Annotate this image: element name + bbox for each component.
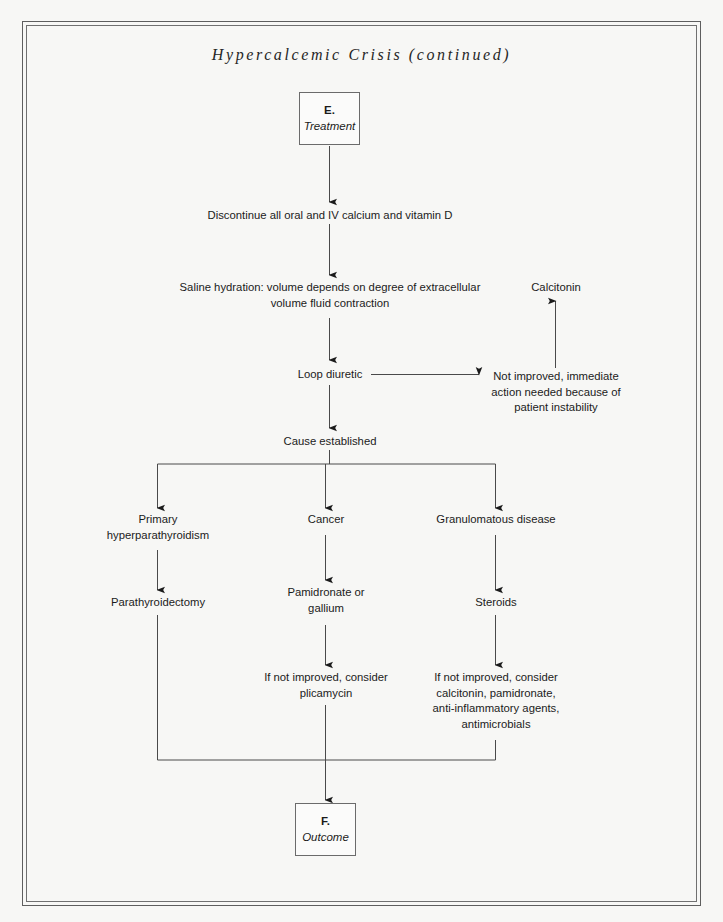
- flowchart-page: Hypercalcemic Crisis (continued): [0, 0, 723, 922]
- node-calcitonin: Calcitonin: [496, 280, 616, 296]
- node-saline-hydration: Saline hydration: volume depends on degr…: [160, 280, 500, 311]
- box-caption-outcome: Outcome: [302, 830, 349, 846]
- node-treatment-pamidronate-gallium: Pamidronate or gallium: [263, 585, 389, 616]
- node-box-outcome[interactable]: F. Outcome: [295, 803, 356, 856]
- node-loop-diuretic: Loop diuretic: [265, 367, 395, 383]
- node-followup-plicamycin: If not improved, consider plicamycin: [248, 670, 404, 701]
- page-border-inner: [26, 25, 697, 902]
- node-cause-granulomatous-disease: Granulomatous disease: [419, 512, 573, 528]
- node-treatment-parathyroidectomy: Parathyroidectomy: [92, 595, 224, 611]
- box-letter-e: E.: [324, 103, 335, 119]
- node-followup-granulomatous: If not improved, consider calcitonin, pa…: [415, 670, 577, 732]
- box-caption-treatment: Treatment: [304, 119, 356, 135]
- node-treatment-steroids: Steroids: [440, 595, 552, 611]
- node-box-treatment[interactable]: E. Treatment: [299, 92, 360, 145]
- box-letter-f: F.: [321, 814, 330, 830]
- node-cause-established: Cause established: [260, 434, 400, 450]
- node-cause-cancer: Cancer: [270, 512, 382, 528]
- page-title: Hypercalcemic Crisis (continued): [0, 46, 723, 64]
- node-cause-primary-hyperparathyroidism: Primary hyperparathyroidism: [87, 512, 229, 543]
- node-discontinue-calcium-vitamin-d: Discontinue all oral and IV calcium and …: [140, 208, 520, 224]
- node-not-improved: Not improved, immediate action needed be…: [486, 369, 626, 416]
